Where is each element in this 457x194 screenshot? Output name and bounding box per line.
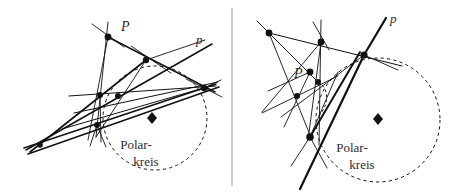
polarkreis-figure: P p Polar- kreis P p Polar- kreis <box>0 0 457 194</box>
right-polar-circle-label-line2: kreis <box>349 157 374 172</box>
right-line-label-p: p <box>389 11 397 26</box>
left-point-label-P: P <box>120 19 130 34</box>
intersection-point <box>94 122 100 128</box>
intersection-point <box>360 51 367 58</box>
intersection-point <box>97 92 103 98</box>
intersection-point <box>143 57 149 63</box>
intersection-point <box>318 39 325 46</box>
intersection-point <box>294 93 300 99</box>
intersection-point <box>201 85 207 91</box>
figure-background <box>0 0 457 194</box>
right-point-label-P: P <box>293 66 303 81</box>
left-polar-circle-label-line1: Polar- <box>120 137 152 152</box>
intersection-point <box>307 69 314 76</box>
intersection-point <box>105 34 112 41</box>
intersection-point <box>306 133 314 141</box>
right-polar-circle-label-line1: Polar- <box>336 140 368 155</box>
intersection-point <box>115 93 121 99</box>
intersection-point <box>266 30 273 37</box>
intersection-point <box>37 142 43 148</box>
intersection-point <box>315 79 321 85</box>
left-polar-circle-label-line2: kreis <box>133 154 158 169</box>
left-line-label-p: p <box>195 32 203 47</box>
